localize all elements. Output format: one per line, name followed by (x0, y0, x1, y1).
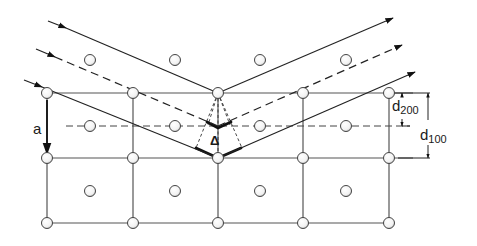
incoming-rays (24, 21, 218, 158)
outgoing-rays (218, 18, 415, 158)
lattice-grid (47, 93, 413, 223)
label-path-difference: Δ (210, 134, 219, 147)
diagram-canvas (0, 0, 477, 246)
label-d100: d100 (420, 127, 447, 145)
label-lattice-parameter: a (33, 121, 41, 136)
bragg-diagram: a Δ d200 d100 (0, 0, 477, 246)
label-d100-sub: 100 (428, 133, 446, 145)
label-d200: d200 (392, 98, 419, 116)
label-d200-sub: 200 (400, 104, 418, 116)
